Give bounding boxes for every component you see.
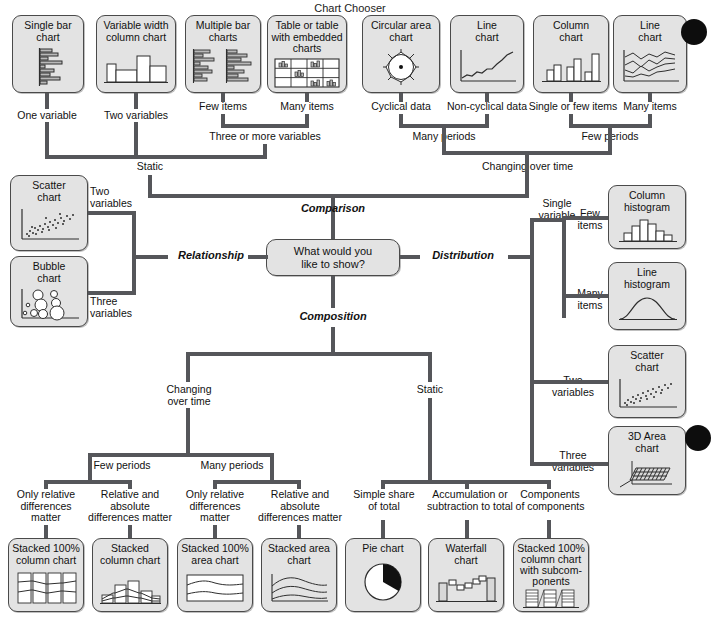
label-composition: Composition (287, 311, 379, 323)
card-line-chart-many-items[interactable]: Line chart (613, 15, 687, 93)
card-variable-width-column-chart[interactable]: Variable width column chart (96, 15, 176, 93)
card-bubble-chart[interactable]: Bubble chart (10, 256, 88, 327)
column-histogram-icon (609, 214, 685, 248)
card-pie-chart[interactable]: Pie chart (345, 538, 421, 612)
card-label: Stacked area chart (261, 539, 337, 567)
card-line-histogram[interactable]: Line histogram (608, 262, 686, 330)
card-scatter-chart-distribution[interactable]: Scatter chart (608, 345, 686, 418)
card-label: Stacked column chart (92, 539, 168, 567)
label-many-items-time: Many items (613, 101, 687, 113)
card-label: Multiple bar charts (185, 16, 261, 44)
table-with-embedded-charts-icon (268, 56, 346, 92)
card-label: Column chart (533, 16, 609, 44)
card-label: Stacked 100% column chart with subcom- p… (513, 539, 589, 588)
connector-changing-over-time-down (525, 151, 529, 197)
connector-single-bar-stem (45, 93, 49, 109)
connector-stackedcol-stem (128, 525, 132, 538)
card-label: Stacked 100% column chart (8, 539, 84, 567)
card-single-bar-chart[interactable]: Single bar chart (12, 15, 84, 93)
center-question-node[interactable]: What would you like to show? (266, 239, 400, 276)
label-few-items-top: Few items (186, 101, 260, 113)
card-scatter-chart-relationship[interactable]: Scatter chart (10, 175, 88, 251)
variable-width-column-chart-icon (97, 44, 175, 92)
stacked-100-area-chart-icon (178, 567, 252, 611)
connector-twovar-down (134, 122, 138, 158)
pie-chart-icon (346, 556, 420, 611)
3d-area-chart-icon (609, 455, 685, 494)
connector-waterfall-stem (465, 520, 469, 538)
card-multiple-bar-charts[interactable]: Multiple bar charts (185, 15, 261, 93)
label-simple-share-of-total: Simple share of total (344, 489, 424, 512)
connector-relationship-vertical (132, 211, 136, 295)
scatter-chart-icon (11, 204, 87, 250)
card-column-chart[interactable]: Column chart (533, 15, 609, 93)
label-comparison: Comparison (287, 203, 379, 215)
connector-stacked100col-stem (44, 525, 48, 538)
card-line-chart-non-cyclical[interactable]: Line chart (450, 15, 524, 93)
card-circular-area-chart[interactable]: Circular area chart (362, 15, 440, 93)
connector-scatter-rel-out (88, 211, 136, 215)
connector-few-periods-down (608, 124, 612, 154)
label-many-items-top: Many items (270, 101, 344, 113)
card-stacked-100-area-chart[interactable]: Stacked 100% area chart (177, 538, 253, 612)
line-chart-icon (451, 44, 523, 92)
connector-static-comp-down2 (428, 398, 432, 483)
scan-artifact-dot-top (681, 19, 707, 45)
label-changing-over-time-composition: Changing over time (148, 384, 230, 407)
card-label: Waterfall chart (428, 539, 504, 567)
connector-comparison-stem (331, 194, 335, 239)
label-static-comparison: Static (120, 161, 180, 173)
card-label: Bubble chart (10, 257, 88, 285)
card-waterfall-chart[interactable]: Waterfall chart (428, 538, 504, 612)
connector-many-items-out (562, 294, 608, 298)
waterfall-chart-icon (429, 567, 503, 611)
card-3d-area-chart[interactable]: 3D Area chart (608, 426, 686, 495)
label-distribution: Distribution (415, 250, 511, 262)
card-label: Line chart (450, 16, 524, 44)
card-label: Circular area chart (362, 16, 440, 44)
label-relative-absolute-1: Relative and absolute differences matter (88, 489, 172, 524)
connector-stacked-sub-stem (547, 520, 551, 538)
label-few-periods-composition: Few periods (82, 460, 162, 472)
circular-area-chart-icon (363, 44, 439, 92)
connector-few-periods-comp-down (88, 453, 92, 483)
card-stacked-area-chart[interactable]: Stacked area chart (261, 538, 337, 612)
label-one-variable: One variable (7, 110, 87, 122)
card-label: Scatter chart (10, 176, 88, 204)
connector-three-variables-dist-out (530, 462, 608, 466)
multiple-bar-charts-icon (186, 44, 260, 92)
stacked-area-chart-icon (262, 567, 336, 611)
line-histogram-icon (609, 291, 685, 329)
label-components-of-components: Components of components (510, 489, 590, 512)
card-label: Line chart (613, 16, 687, 44)
connector-single-variable-spine (562, 218, 566, 318)
card-column-histogram[interactable]: Column histogram (608, 185, 686, 249)
label-single-or-few-items: Single or few items (521, 101, 625, 113)
label-static-composition: Static (400, 384, 460, 396)
card-stacked-100-column-with-subcomponents[interactable]: Stacked 100% column chart with subcom- p… (513, 538, 589, 612)
connector-changing-over-time-comp-down (186, 352, 190, 382)
card-label: 3D Area chart (608, 427, 686, 455)
card-stacked-100-column-chart[interactable]: Stacked 100% column chart (8, 538, 84, 612)
card-label: Stacked 100% area chart (177, 539, 253, 567)
card-stacked-column-chart[interactable]: Stacked column chart (92, 538, 168, 612)
card-label: Pie chart (345, 539, 421, 556)
connector-composition-stem (331, 276, 335, 308)
stacked-100-column-chart-icon (9, 567, 83, 611)
connector-varwidth-stem (134, 93, 138, 109)
connector-few-periods-split-bar (44, 480, 132, 484)
column-chart-icon (534, 44, 608, 92)
single-bar-chart-icon (13, 44, 83, 92)
connector-distribution-spine (530, 218, 534, 466)
connector-static-comp-down (428, 352, 432, 382)
connector-relationship-to-center (248, 255, 268, 259)
card-label: Scatter chart (608, 346, 686, 374)
card-table-with-embedded-charts[interactable]: Table or table with embedded charts (267, 15, 347, 93)
card-label: Single bar chart (12, 16, 84, 44)
connector-bubble-out (88, 291, 136, 295)
connector-onevar-down (45, 122, 49, 158)
connector-many-periods-down (442, 124, 446, 154)
connector-many-periods-split-bar (213, 480, 301, 484)
connector-changing-over-time-comp-down2 (186, 408, 190, 456)
chart-chooser-diagram: Chart Chooser Single bar chart (0, 0, 714, 619)
